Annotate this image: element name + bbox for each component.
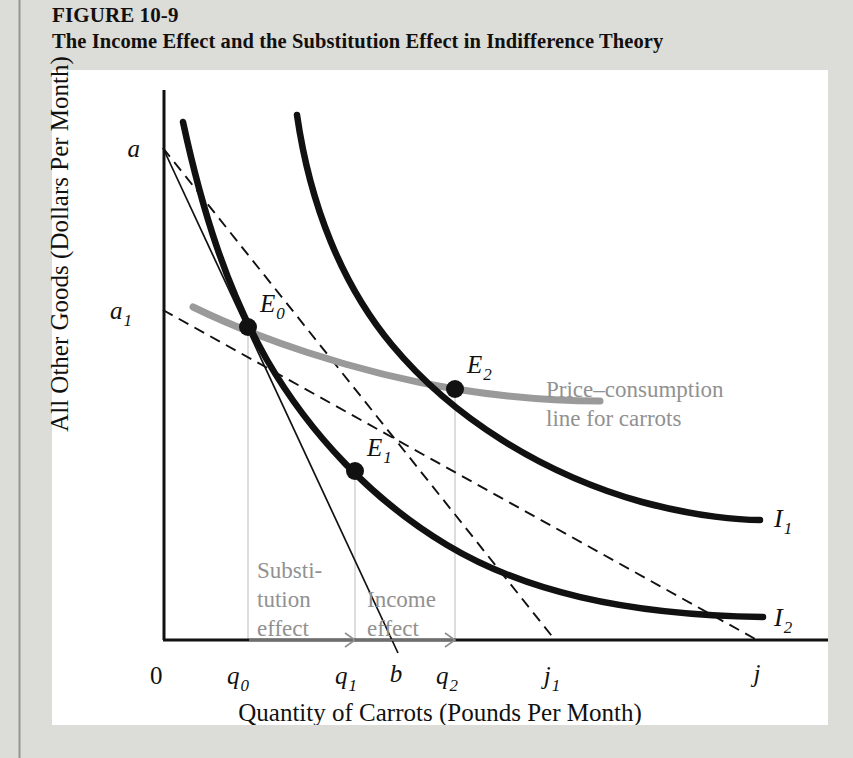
x-tick-label-q1-base: q [335, 662, 348, 689]
y-axis-title: All Other Goods (Dollars Per Month) [46, 56, 73, 432]
y-tick-label-a1: a1 [110, 297, 132, 330]
point-label-E0-sub: 0 [276, 304, 285, 323]
x-tick-label-q0-sub: 0 [241, 676, 250, 695]
curve-label-I1: I1 [773, 504, 792, 538]
chart-panel: E0 E1 E2 I1 I2 a a1 0 q0 [52, 70, 828, 725]
x-tick-label-j1-sub: 1 [552, 676, 561, 695]
x-tick-label-q0-base: q [227, 662, 240, 689]
substitution-effect-line1: Substi- [257, 558, 322, 583]
x-tick-label-b: b [390, 660, 403, 687]
income-effect-line1: Income [367, 587, 436, 612]
point-E0[interactable] [239, 318, 257, 336]
y-tick-label-a1-base: a [110, 297, 123, 324]
indifference-curve-chart: E0 E1 E2 I1 I2 a a1 0 q0 [52, 70, 828, 725]
x-tick-label-q2-base: q [436, 662, 449, 689]
x-tick-label-q2-sub: 2 [450, 676, 459, 695]
point-label-E2-base: E [466, 351, 482, 378]
substitution-effect-line3: effect [257, 616, 310, 641]
substitution-effect-label: Substi- tution effect [257, 558, 328, 641]
point-label-E1: E1 [366, 434, 392, 467]
curve-label-I2-base: I [773, 603, 784, 632]
point-label-E2: E2 [466, 351, 492, 384]
page-background: FIGURE 10-9 The Income Effect and the Su… [0, 0, 853, 758]
point-label-E0-base: E [259, 290, 275, 317]
income-effect-line2: effect [367, 616, 420, 641]
point-label-E2-sub: 2 [483, 365, 492, 384]
y-axis-title-wrap: All Other Goods (Dollars Per Month) [46, 14, 74, 474]
point-E1[interactable] [346, 462, 364, 480]
x-tick-label-j1-base: j [541, 662, 551, 689]
x-tick-label-q1-sub: 1 [349, 676, 358, 695]
x-tick-label-j1: j1 [541, 662, 560, 695]
x-tick-label-q2: q2 [436, 662, 459, 695]
figure-caption: FIGURE 10-9 The Income Effect and the Su… [52, 2, 832, 54]
x-tick-label-0: 0 [150, 662, 163, 689]
figure-title: The Income Effect and the Substitution E… [52, 28, 832, 54]
x-tick-label-j: j [751, 660, 761, 687]
x-tick-label-q0: q0 [227, 662, 250, 695]
point-E2[interactable] [446, 380, 464, 398]
income-effect-label: Income effect [367, 587, 442, 641]
x-tick-label-q1: q1 [335, 662, 357, 695]
curve-label-I1-base: I [773, 504, 784, 533]
y-tick-label-a: a [128, 135, 141, 162]
curve-label-I2: I2 [773, 603, 793, 637]
point-label-E1-base: E [366, 434, 382, 461]
price-consumption-label-line2: line for carrots [546, 406, 681, 431]
price-consumption-label-line1: Price–consumption [546, 377, 724, 402]
figure-number: FIGURE 10-9 [52, 2, 832, 28]
y-tick-label-a1-sub: 1 [124, 311, 133, 330]
point-label-E1-sub: 1 [383, 448, 392, 467]
budget-line-a1-j [163, 310, 757, 640]
point-label-E0: E0 [259, 290, 285, 323]
curve-label-I1-sub: 1 [784, 519, 793, 538]
substitution-effect-line2: tution [257, 587, 311, 612]
curve-label-I2-sub: 2 [784, 618, 793, 637]
x-axis-title: Quantity of Carrots (Pounds Per Month) [238, 699, 641, 725]
